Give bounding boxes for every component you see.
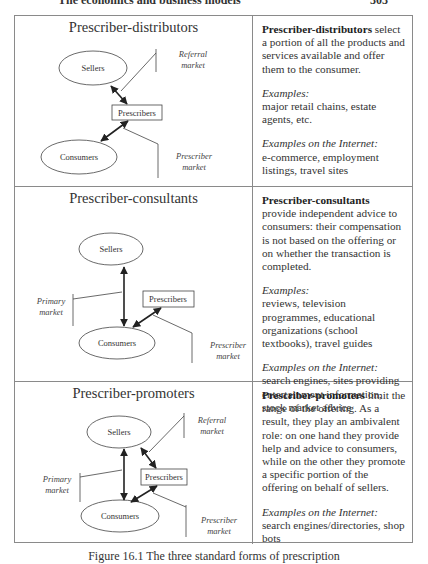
figure-caption: Figure 16.1 The three standard forms of …: [0, 549, 428, 564]
internet-examples: Examples on the Internet:e-commerce, emp…: [262, 137, 406, 177]
prescriber-market-label: market: [182, 162, 206, 172]
prescriber-market-leader: [123, 128, 158, 144]
description-text: provide independent advice to consumers:…: [262, 207, 401, 272]
sellers-prescribers-arrow: [111, 86, 127, 104]
referral-market-label: market: [200, 426, 224, 436]
prescriber-market-leader: [153, 315, 192, 333]
internet-examples-label: Examples on the Internet: [262, 506, 374, 518]
description-text: limit the range of the offering. As a re…: [262, 389, 405, 493]
diagram-cell-consultants: Prescriber-consultants Sellers: [15, 187, 253, 381]
consumers-label: Consumers: [60, 152, 98, 162]
examples-text: major retail chains, estate agents, etc.: [262, 100, 376, 125]
diagram-cell-distributors: Prescriber-distributors Sellers: [15, 16, 253, 186]
prescriber-market-label: Prescriber: [209, 340, 247, 350]
prescriber-market-leader: [153, 493, 186, 507]
prescribers-consumers-arrow: [131, 486, 157, 502]
prescriber-market-label: market: [216, 351, 240, 361]
referral-market-label: Referral: [178, 49, 208, 59]
diagram-promoters: Sellers Prescribers Consumers Referral m…: [15, 382, 253, 544]
term: Prescriber-promoters: [262, 389, 365, 401]
internet-examples-label: Examples on the Internet: [262, 361, 374, 373]
prescribers-label: Prescribers: [118, 108, 156, 118]
examples: Examples:reviews, television programmes,…: [262, 284, 406, 350]
internet-examples: Examples on the Internet:search engines/…: [262, 506, 406, 546]
prescriber-market-label: Prescriber: [200, 515, 238, 525]
primary-market-label: market: [45, 485, 69, 495]
primary-market-label: Primary: [42, 474, 72, 484]
description-cell-consultants: Prescriber-consultants provide independe…: [253, 187, 412, 381]
description: Prescriber-consultants provide independe…: [262, 194, 406, 273]
examples-label: Examples: [262, 87, 306, 99]
internet-examples-label: Examples on the Internet: [262, 137, 374, 149]
running-head-title: The economics and business models: [58, 0, 241, 7]
prescriber-forms-table: Prescriber-distributors Sellers: [14, 15, 413, 543]
internet-examples-text: e-commerce, employment listings, travel …: [262, 151, 379, 176]
prescriber-market-label: Prescriber: [175, 151, 213, 161]
internet-examples-text: search engines/directories, shop bots: [262, 519, 405, 544]
primary-market-leader: [80, 470, 122, 477]
prescribers-consumers-arrow: [133, 308, 161, 327]
examples-text: reviews, television programmes, educatio…: [262, 297, 375, 349]
description: Prescriber-distributors select a portion…: [262, 23, 406, 76]
sellers-label: Sellers: [107, 427, 130, 437]
sellers-prescribers-arrow: [141, 448, 156, 468]
consumers-label: Consumers: [98, 338, 136, 348]
page-number: 303: [370, 0, 388, 8]
primary-market-label: Primary: [36, 296, 66, 306]
diagram-cell-promoters: Prescriber-promoters: [15, 382, 253, 544]
row-consultants: Prescriber-consultants Sellers: [15, 187, 412, 382]
diagram-distributors: Sellers Prescribers Consumers Referral m…: [15, 16, 253, 187]
diagram-consultants: Sellers Prescribers Consumers Primary ma…: [15, 187, 253, 382]
sellers-label: Sellers: [99, 244, 122, 254]
prescribers-label: Prescribers: [149, 294, 187, 304]
examples: Examples:major retail chains, estate age…: [262, 87, 406, 127]
description: Prescriber-promoters limit the range of …: [262, 389, 406, 495]
row-distributors: Prescriber-distributors Sellers: [15, 16, 412, 187]
term: Prescriber-consultants: [262, 194, 370, 206]
referral-market-label: Referral: [197, 415, 227, 425]
prescriber-market-label: market: [207, 526, 231, 536]
row-promoters: Prescriber-promoters: [15, 382, 412, 544]
running-head: The economics and business models 303: [58, 0, 388, 8]
prescribers-consumers-arrow: [101, 121, 128, 141]
description-cell-promoters: Prescriber-promoters limit the range of …: [253, 382, 412, 544]
consumers-label: Consumers: [101, 511, 139, 521]
examples-label: Examples: [262, 284, 306, 296]
description-cell-distributors: Prescriber-distributors select a portion…: [253, 16, 412, 186]
sellers-label: Sellers: [81, 63, 104, 73]
primary-market-leader: [73, 292, 122, 299]
term: Prescriber-distributors: [262, 23, 372, 35]
prescribers-label: Prescribers: [145, 472, 183, 482]
referral-market-label: market: [181, 60, 205, 70]
referral-market-leader: [149, 416, 184, 452]
primary-market-label: market: [39, 307, 63, 317]
